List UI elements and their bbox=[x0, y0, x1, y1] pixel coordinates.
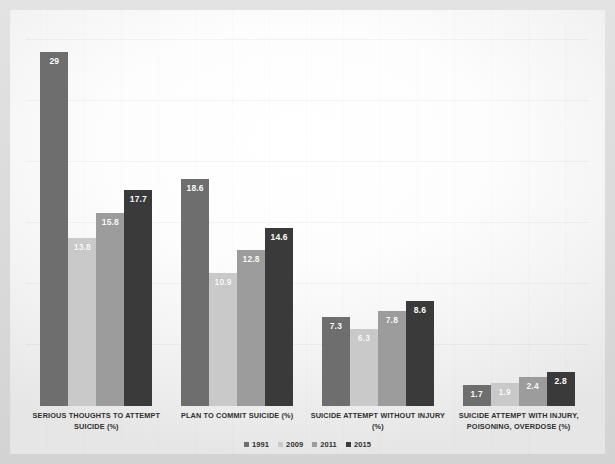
bar-2015[interactable]: 2.8 bbox=[547, 372, 575, 406]
chart-canvas: 2913.815.817.718.610.912.814.67.36.37.88… bbox=[10, 10, 605, 454]
legend-label: 1991 bbox=[252, 440, 269, 449]
chart-figure: 2913.815.817.718.610.912.814.67.36.37.88… bbox=[0, 0, 615, 464]
bar-value-label: 10.9 bbox=[209, 277, 237, 287]
bar-2015[interactable]: 17.7 bbox=[124, 190, 152, 406]
legend-swatch-icon bbox=[278, 442, 283, 447]
bar-2015[interactable]: 14.6 bbox=[265, 228, 293, 406]
legend-item-2015[interactable]: 2015 bbox=[346, 440, 371, 449]
bar-value-label: 2.4 bbox=[519, 381, 547, 391]
bar-value-label: 7.8 bbox=[378, 315, 406, 325]
legend-swatch-icon bbox=[312, 442, 317, 447]
legend-label: 2009 bbox=[286, 440, 303, 449]
bar-2011[interactable]: 12.8 bbox=[237, 250, 265, 406]
legend-item-1991[interactable]: 1991 bbox=[244, 440, 269, 449]
plot-area: 2913.815.817.718.610.912.814.67.36.37.88… bbox=[26, 28, 589, 406]
legend-label: 2015 bbox=[354, 440, 371, 449]
category-label: SERIOUS THOUGHTS TO ATTEMPT SUICIDE (%) bbox=[29, 410, 164, 433]
bar-value-label: 12.8 bbox=[237, 254, 265, 264]
bar-1991[interactable]: 18.6 bbox=[181, 179, 209, 406]
category-label: PLAN TO COMMIT SUICIDE (%) bbox=[170, 410, 305, 433]
bar-group: 1.71.92.42.8 bbox=[463, 28, 575, 406]
bar-2009[interactable]: 13.8 bbox=[68, 238, 96, 406]
bar-2015[interactable]: 8.6 bbox=[406, 301, 434, 406]
category-label: SUICIDE ATTEMPT WITHOUT INJURY (%) bbox=[310, 410, 445, 433]
category-axis-labels: SERIOUS THOUGHTS TO ATTEMPT SUICIDE (%)P… bbox=[26, 410, 589, 433]
bar-2009[interactable]: 1.9 bbox=[491, 383, 519, 406]
legend-label: 2011 bbox=[320, 440, 337, 449]
bar-value-label: 8.6 bbox=[406, 305, 434, 315]
bar-value-label: 17.7 bbox=[124, 194, 152, 204]
bar-value-label: 18.6 bbox=[181, 183, 209, 193]
bar-value-label: 2.8 bbox=[547, 376, 575, 386]
bar-2009[interactable]: 10.9 bbox=[209, 273, 237, 406]
bar-value-label: 6.3 bbox=[350, 333, 378, 343]
legend-item-2011[interactable]: 2011 bbox=[312, 440, 337, 449]
legend-swatch-icon bbox=[346, 442, 351, 447]
bar-2011[interactable]: 7.8 bbox=[378, 311, 406, 406]
bar-2011[interactable]: 2.4 bbox=[519, 377, 547, 406]
chart-legend: 1991200920112015 bbox=[10, 440, 605, 449]
bar-value-label: 13.8 bbox=[68, 242, 96, 252]
legend-swatch-icon bbox=[244, 442, 249, 447]
bar-group: 7.36.37.88.6 bbox=[322, 28, 434, 406]
bar-2011[interactable]: 15.8 bbox=[96, 213, 124, 406]
category-label: SUICIDE ATTEMPT WITH INJURY, POISONING, … bbox=[451, 410, 586, 433]
bar-1991[interactable]: 1.7 bbox=[463, 385, 491, 406]
bar-2009[interactable]: 6.3 bbox=[350, 329, 378, 406]
bar-group: 2913.815.817.7 bbox=[40, 28, 152, 406]
bar-value-label: 14.6 bbox=[265, 232, 293, 242]
legend-item-2009[interactable]: 2009 bbox=[278, 440, 303, 449]
bar-value-label: 1.9 bbox=[491, 387, 519, 397]
bar-groups: 2913.815.817.718.610.912.814.67.36.37.88… bbox=[26, 28, 589, 406]
bar-1991[interactable]: 29 bbox=[40, 52, 68, 406]
bar-value-label: 15.8 bbox=[96, 217, 124, 227]
bar-1991[interactable]: 7.3 bbox=[322, 317, 350, 406]
bar-value-label: 1.7 bbox=[463, 389, 491, 399]
bar-group: 18.610.912.814.6 bbox=[181, 28, 293, 406]
bar-value-label: 29 bbox=[40, 56, 68, 66]
bar-value-label: 7.3 bbox=[322, 321, 350, 331]
